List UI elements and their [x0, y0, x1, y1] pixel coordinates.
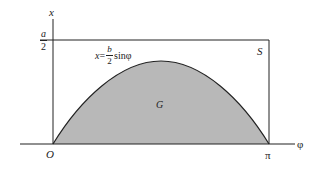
equation-fraction: b 2	[106, 45, 113, 66]
rectangle-label: S	[257, 46, 263, 57]
a-half-denominator: 2	[40, 42, 47, 52]
diagram-canvas	[0, 0, 318, 171]
equation-equals: =	[99, 51, 105, 61]
vertical-axis-label: x	[49, 7, 54, 18]
equation-func: sinφ	[114, 51, 131, 61]
diagram-figure: x a 2 x = b 2 sinφ S G O π φ	[0, 0, 318, 171]
a-half-numerator: a	[40, 29, 47, 39]
a-half-label: a 2	[40, 29, 47, 52]
horizontal-axis-label: φ	[297, 139, 303, 150]
curve-equation: x = b 2 sinφ	[95, 45, 132, 66]
region-label: G	[156, 100, 163, 110]
equation-denominator: 2	[107, 57, 112, 66]
pi-label: π	[265, 150, 271, 161]
equation-numerator: b	[107, 45, 112, 54]
origin-label: O	[46, 149, 54, 160]
